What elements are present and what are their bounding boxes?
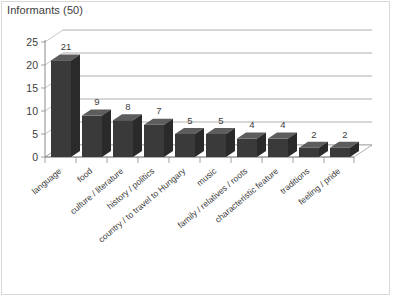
- xtick-label-music: music: [195, 165, 219, 188]
- ytick-label-5: 5: [32, 128, 38, 140]
- bar-family-relatives-roots[interactable]: [237, 133, 266, 157]
- bar-food[interactable]: [82, 110, 111, 157]
- category-labels-group: language food culture / literature histo…: [30, 165, 343, 244]
- data-label-country-travel-hungary: 5: [187, 115, 192, 126]
- xtick-label-food: food: [75, 166, 94, 185]
- bar-culture-literature[interactable]: [113, 114, 142, 157]
- data-label-language: 21: [61, 41, 72, 52]
- data-label-history-politics: 7: [156, 105, 161, 116]
- y-axis: 0 5 10 15 20 25: [26, 36, 45, 163]
- ytick-label-15: 15: [26, 82, 38, 94]
- ytick-label-20: 20: [26, 59, 38, 71]
- bar-country-travel-hungary[interactable]: [175, 128, 204, 157]
- xtick-label-culture-literature: culture / literature: [68, 166, 125, 216]
- bar-characteristic-feature[interactable]: [268, 133, 297, 157]
- data-label-characteristic-feature: 4: [280, 119, 285, 130]
- data-label-family-relatives-roots: 4: [249, 119, 254, 130]
- bar-history-politics[interactable]: [144, 119, 173, 157]
- data-label-feeling-pride: 2: [342, 129, 347, 140]
- data-label-food: 9: [94, 96, 99, 107]
- data-label-culture-literature: 8: [125, 101, 130, 112]
- bar-music[interactable]: [206, 128, 235, 157]
- ytick-label-10: 10: [26, 105, 38, 117]
- ytick-label-25: 25: [26, 36, 38, 48]
- bar-language[interactable]: [51, 54, 80, 157]
- bar-chart-plot: 0 5 10 15 20 25: [0, 0, 394, 302]
- xtick-label-language: language: [30, 166, 64, 197]
- chart-figure: Informants (50): [0, 0, 394, 302]
- data-label-traditions: 2: [311, 129, 316, 140]
- data-label-music: 5: [218, 115, 223, 126]
- x-axis: [45, 157, 354, 163]
- ytick-label-0: 0: [32, 151, 38, 163]
